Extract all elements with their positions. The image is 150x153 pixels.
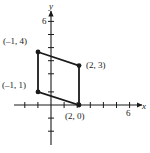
vertex-label-top-left: (–1, 4)	[3, 37, 27, 46]
x-axis-label: x	[142, 102, 146, 111]
graph-figure: y x 6 6 (–1, 4) (2, 3) (2, 0) (–1, 1)	[0, 0, 150, 153]
vertex-label-top-right: (2, 3)	[86, 61, 106, 70]
vertex-marker-top-right	[77, 63, 82, 68]
vertex-marker-top-left	[36, 50, 41, 55]
x-tick-label-6: 6	[126, 109, 131, 118]
parallelogram-shape	[36, 50, 82, 108]
y-tick-label-6: 6	[42, 17, 47, 26]
parallelogram-outline	[38, 52, 79, 105]
y-axis	[48, 11, 54, 145]
vertex-marker-bottom-right	[77, 103, 82, 108]
y-axis-label: y	[49, 2, 53, 11]
vertex-label-bottom-left: (–1, 1)	[2, 81, 26, 90]
vertex-label-bottom-right: (2, 0)	[65, 112, 85, 121]
vertex-marker-bottom-left	[36, 90, 41, 95]
coordinate-plane-svg	[0, 0, 150, 153]
